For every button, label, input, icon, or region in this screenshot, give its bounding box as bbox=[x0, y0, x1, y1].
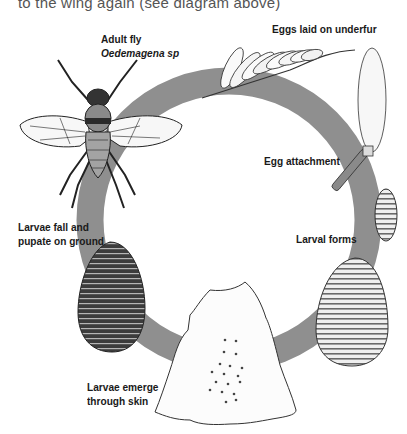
label-larval-forms: Larval forms bbox=[296, 232, 357, 246]
label-larvae-emerge: Larvae emerge through skin bbox=[87, 380, 158, 408]
label-egg-attachment-line1: Egg attachment bbox=[264, 154, 340, 168]
label-larvae-pupate: Larvae fall and pupate on ground bbox=[18, 220, 104, 248]
label-larvae-pupate-line2: pupate on ground bbox=[18, 234, 104, 248]
label-adult-fly: Adult fly Oedemagena sp bbox=[101, 32, 179, 60]
small-larva-illustration bbox=[375, 189, 397, 241]
reindeer-skin-illustration bbox=[155, 282, 296, 425]
label-eggs-laid: Eggs laid on underfur bbox=[272, 22, 377, 36]
life-cycle-diagram bbox=[0, 0, 407, 434]
large-larva-illustration bbox=[316, 258, 388, 366]
label-larval-forms-line1: Larval forms bbox=[296, 232, 357, 246]
label-adult-fly-species: Oedemagena sp bbox=[101, 46, 179, 60]
label-larvae-emerge-line2: through skin bbox=[87, 394, 158, 408]
label-larvae-pupate-line1: Larvae fall and bbox=[18, 220, 104, 234]
label-adult-fly-line1: Adult fly bbox=[101, 32, 179, 46]
label-eggs-laid-line1: Eggs laid on underfur bbox=[272, 22, 377, 36]
label-egg-attachment: Egg attachment bbox=[264, 154, 340, 168]
label-larvae-emerge-line1: Larvae emerge bbox=[87, 380, 158, 394]
